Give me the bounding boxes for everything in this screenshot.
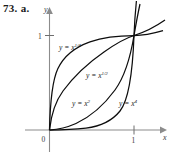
curve-label-x-squared: y = x2 bbox=[71, 99, 90, 108]
plot-area: y x 1 1 0 y = x1/4 y = x1/2 y = x2 y = x… bbox=[0, 0, 172, 158]
figure-container: 73. a. y x 1 1 0 y = x1/4 y = x1/2 y = x… bbox=[0, 0, 172, 158]
curve-x-fourth bbox=[50, 1, 137, 130]
x-axis-label: x bbox=[162, 133, 167, 142]
curve-x-squared bbox=[50, 4, 141, 130]
curve-label-x-one-half: y = x1/2 bbox=[85, 71, 108, 80]
curve-label-x-fourth: y = x4 bbox=[118, 99, 137, 108]
y-axis-label: y bbox=[43, 5, 48, 14]
origin-label: 0 bbox=[42, 135, 46, 144]
curve-label-x-one-fourth: y = x1/4 bbox=[58, 43, 81, 52]
y-tick-label-one: 1 bbox=[38, 32, 42, 41]
x-tick-label-one: 1 bbox=[132, 136, 136, 145]
